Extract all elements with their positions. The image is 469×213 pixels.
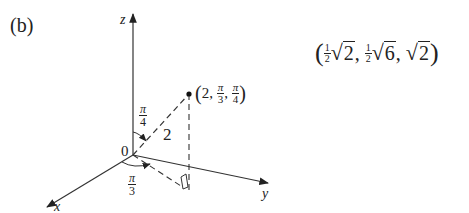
phi-angle-label: π 4 [139, 103, 147, 128]
origin-label: 0 [121, 143, 129, 160]
radius-length-label: 2 [163, 125, 172, 145]
rectangular-coordinates-result: ( 1 2 √2 , 1 2 √6 , √2 ) [315, 38, 439, 68]
z-axis-label: z [120, 12, 125, 28]
spherical-coordinates-diagram [0, 0, 469, 213]
phi-angle-arc [133, 132, 146, 141]
x-axis-label: x [54, 199, 60, 213]
point-marker [186, 91, 191, 96]
y-axis-label: y [262, 186, 268, 202]
point-coordinates-label: ( 2, π 3 , π 4 ) [195, 82, 246, 105]
y-axis [133, 155, 268, 183]
panel-label: (b) [10, 14, 33, 37]
right-angle-marker [181, 174, 188, 189]
theta-angle-label: π 3 [128, 172, 136, 197]
